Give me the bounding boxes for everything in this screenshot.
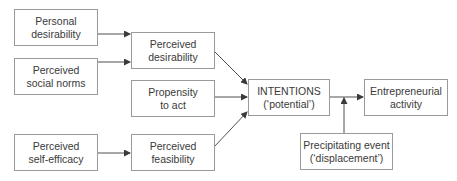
- node-label-line1: INTENTIONS: [257, 85, 321, 98]
- node-label-line1: Entrepreneurial: [370, 85, 442, 98]
- node-label-line2: self-efficacy: [28, 153, 83, 166]
- node-label-line1: Personal: [35, 15, 76, 28]
- node-propensity-to-act: Propensity to act: [131, 80, 215, 117]
- node-personal-desirability: Personal desirability: [14, 9, 98, 46]
- node-label-line2: desirability: [31, 28, 81, 41]
- node-label-line1: Precipitating event: [303, 139, 389, 152]
- node-label-line2: desirability: [148, 51, 198, 64]
- node-precipitating-event: Precipitating event (‘displacement’): [300, 133, 393, 170]
- node-label-line1: Perceived: [33, 140, 80, 153]
- node-label-line1: Propensity: [148, 86, 198, 99]
- node-perceived-feasibility: Perceived feasibility: [131, 134, 215, 171]
- node-label-line2: feasibility: [151, 153, 194, 166]
- node-perceived-self-efficacy: Perceived self-efficacy: [14, 134, 98, 171]
- arrow-feasibility-to-intentions: [214, 112, 247, 147]
- node-label-line2: (‘displacement’): [310, 152, 384, 165]
- node-label-line2: activity: [390, 98, 422, 111]
- node-perceived-desirability: Perceived desirability: [131, 32, 215, 69]
- node-intentions: INTENTIONS (‘potential’): [248, 79, 330, 116]
- node-label-line1: Perceived: [150, 38, 197, 51]
- node-label-line2: (‘potential’): [263, 98, 314, 111]
- node-label-line1: Perceived: [33, 64, 80, 77]
- node-label-line2: to act: [160, 99, 186, 112]
- node-label-line1: Perceived: [150, 140, 197, 153]
- node-perceived-social-norms: Perceived social norms: [14, 58, 98, 95]
- arrow-desirability-to-intentions: [214, 51, 247, 84]
- node-label-line2: social norms: [27, 77, 86, 90]
- node-entrepreneurial-activity: Entrepreneurial activity: [364, 79, 448, 116]
